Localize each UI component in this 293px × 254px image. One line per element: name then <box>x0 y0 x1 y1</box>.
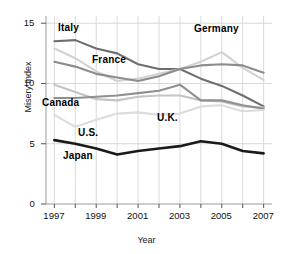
x-tick-label: 2001 <box>127 210 148 221</box>
x-tick-label: 2005 <box>211 210 232 221</box>
axis-tick-marks <box>41 23 264 208</box>
series-label-canada: Canada <box>42 97 79 108</box>
y-tick-label: 15 <box>24 17 35 28</box>
misery-index-line-chart: 051015 199719992001200320052007 ItalyGer… <box>0 0 293 254</box>
series-label-france: France <box>92 54 126 65</box>
y-tick-label: 5 <box>29 138 34 149</box>
x-axis-title: Year <box>0 229 293 247</box>
y-axis-title-text: Misery Index <box>23 61 33 112</box>
series-label-italy: Italy <box>58 22 79 33</box>
series-label-uk: U.K. <box>157 112 178 123</box>
y-tick-label: 0 <box>29 198 34 209</box>
series-label-germany: Germany <box>194 23 239 34</box>
x-tick-label: 1997 <box>43 210 64 221</box>
x-tick-label: 1999 <box>85 210 106 221</box>
x-axis-title-text: Year <box>137 235 155 245</box>
series-label-us: U.S. <box>78 127 98 138</box>
x-tick-label: 2003 <box>169 210 190 221</box>
x-tick-label: 2007 <box>253 210 274 221</box>
series-label-japan: Japan <box>63 150 93 161</box>
y-axis-title: Misery Index <box>17 47 35 127</box>
